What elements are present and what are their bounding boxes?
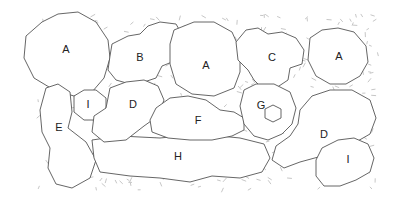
plant-label: F <box>195 114 202 126</box>
plant-group-H: H <box>92 134 270 182</box>
plant-label: G <box>257 99 266 111</box>
plant-label: C <box>268 51 276 63</box>
plant-group-A-right: A <box>308 28 368 84</box>
plant-label: D <box>320 128 328 140</box>
plant-group-G: G <box>240 84 296 140</box>
plant-label: A <box>202 59 210 71</box>
plant-label: B <box>136 51 143 63</box>
plant-group-A-center: A <box>170 22 240 96</box>
plant-label: H <box>174 150 182 162</box>
plant-group-F: F <box>150 96 244 140</box>
plant-label: D <box>129 98 137 110</box>
plant-label: I <box>346 153 349 165</box>
plant-label: A <box>62 43 70 55</box>
planting-plan-diagram: A E H B A C A I <box>0 0 395 202</box>
plant-label: I <box>86 98 89 110</box>
plant-group-C: C <box>236 28 304 88</box>
plan-canvas: A E H B A C A I <box>0 0 395 202</box>
plant-label: A <box>335 50 343 62</box>
hexagon-stone-icon <box>265 105 281 122</box>
plant-group-A-left: A <box>24 12 110 96</box>
plant-label: E <box>55 121 62 133</box>
